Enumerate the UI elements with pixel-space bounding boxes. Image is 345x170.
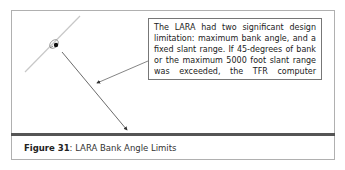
callout-line: or the maximum 5000 foot slant range [154,55,316,66]
callout-line: fixed slant range. If 45-degrees of bank [154,44,316,55]
callout-pointer-arrow [97,61,148,83]
figure-caption: Figure 31: LARA Bank Angle Limits [24,143,176,153]
figure-label: Figure 31 [24,143,70,153]
slant-range-arrow [62,52,127,130]
ground-line [11,133,335,136]
callout-line: was exceeded, the TFR computer [154,66,316,77]
figure-title: LARA Bank Angle Limits [75,143,176,153]
callout-line: The LARA had two significant design [154,22,316,33]
callout-line: limitation: maximum bank angle, and a [154,33,316,44]
aircraft-icon [48,38,60,50]
callout-text-box: The LARA had two significant design limi… [148,18,322,80]
